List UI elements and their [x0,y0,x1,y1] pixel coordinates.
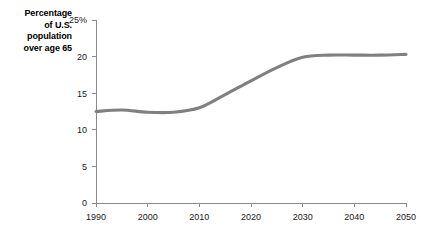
x-tick-label: 1990 [86,212,106,222]
x-tick-label: 2000 [138,212,158,222]
y-tick-label: 25% [69,15,87,25]
line-chart-plot: 0510152025% 1990200020102020203020402050 [0,0,424,236]
x-tick-label: 2040 [344,212,364,222]
y-tick-label: 0 [82,198,87,208]
chart-figure: Percentage of U.S. population over age 6… [0,0,424,236]
x-tick-label: 2020 [241,212,261,222]
x-tick-label: 2010 [189,212,209,222]
x-tick-label: 2030 [293,212,313,222]
x-axis-ticks: 1990200020102020203020402050 [86,203,416,222]
y-tick-label: 15 [77,89,87,99]
y-axis-ticks: 0510152025% [69,15,96,208]
y-tick-label: 10 [77,125,87,135]
x-tick-label: 2050 [396,212,416,222]
data-series-line [96,54,406,112]
y-tick-label: 20 [77,52,87,62]
y-tick-label: 5 [82,162,87,172]
